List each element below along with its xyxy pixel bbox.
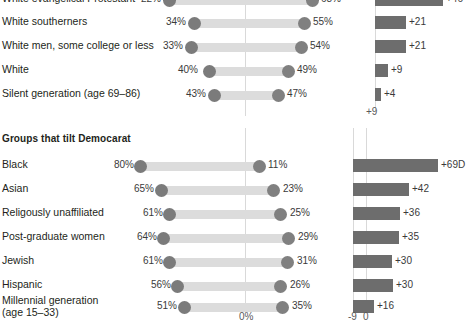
value-left: 80% [114, 159, 134, 170]
dumbbell: 80% 11% [0, 155, 360, 177]
table-row: Millennial generation (age 15–33) 51% 35… [0, 296, 468, 318]
dot-left [171, 280, 184, 293]
table-row: White southerners 34% 55% +21 [0, 12, 468, 34]
value-left: 61% [143, 207, 163, 218]
gap-label: +4 [384, 88, 395, 99]
dot-left [163, 256, 176, 269]
dot-left [163, 208, 176, 221]
connector-bar [168, 0, 312, 5]
connector-bar [183, 303, 282, 312]
dot-left [185, 41, 198, 54]
value-right: 11% [268, 159, 287, 170]
gap-bar [353, 255, 392, 268]
gap-label: +9 [391, 64, 402, 75]
connector-bar [168, 258, 287, 267]
gap-bar [353, 207, 400, 220]
gap-bar [353, 279, 393, 292]
dumbbell: 64% 29% [0, 227, 360, 249]
dot-right [298, 17, 311, 30]
table-row: White 40% 49% +9 [0, 60, 468, 82]
connector-bar [190, 43, 301, 52]
value-left: 43% [186, 88, 206, 99]
gap-bar [375, 16, 406, 29]
value-left: 64% [137, 231, 157, 242]
dot-right [274, 208, 287, 221]
gap-bar [375, 88, 381, 101]
table-row: Asian 65% 23% +42 [0, 179, 468, 201]
gap-label: +21 [409, 16, 426, 27]
value-left: 56% [151, 279, 171, 290]
gap-bar [375, 64, 388, 77]
connector-bar [168, 210, 280, 219]
table-row: White evangelical Protestant 22% 68% +46 [0, 0, 468, 11]
dot-right [282, 232, 295, 245]
connector-bar [176, 282, 280, 291]
value-right: 55% [313, 16, 333, 27]
table-row: White men, some college or less 33% 54% … [0, 36, 468, 58]
value-right: 31% [297, 255, 317, 266]
dot-left [188, 17, 201, 30]
value-left: 34% [166, 16, 186, 27]
dot-right [274, 280, 287, 293]
dot-left [208, 89, 221, 102]
connector-bar [193, 19, 304, 28]
dumbbell: 43% 47% [0, 84, 360, 106]
section-header-democrat: Groups that tilt Democarat [2, 133, 131, 144]
dot-left [203, 65, 216, 78]
connector-bar [160, 186, 273, 195]
value-right: 54% [310, 40, 330, 51]
axis-tick-minus-nine: -9 [348, 311, 357, 321]
gap-label: +35 [402, 231, 419, 242]
gap-label: +36 [403, 207, 420, 218]
dot-right [267, 184, 280, 197]
dumbbell: 33% 54% [0, 36, 360, 58]
dumbbell: 22% 68% [0, 0, 360, 11]
value-left: 65% [134, 183, 154, 194]
axis-tick-zero: 0 [363, 311, 369, 321]
value-right: 68% [321, 0, 341, 4]
value-left: 40% [178, 64, 198, 75]
gap-bar [353, 183, 409, 196]
dot-right [295, 41, 308, 54]
table-row: Black 80% 11% +69D [0, 155, 468, 177]
value-right: 47% [287, 88, 307, 99]
dot-left [157, 232, 170, 245]
dot-right [276, 301, 289, 314]
gap-label: +16 [377, 300, 394, 311]
table-row: Religously unaffiliated 61% 25% +36 [0, 203, 468, 225]
dot-right [272, 89, 285, 102]
gap-label: +42 [412, 183, 429, 194]
connector-bar [213, 91, 278, 100]
connector-bar [139, 162, 259, 171]
connector-bar [208, 67, 288, 76]
value-right: 49% [297, 64, 317, 75]
dumbbell: 65% 23% [0, 179, 360, 201]
dot-left [155, 184, 168, 197]
table-row: Jewish 61% 31% +30 [0, 251, 468, 273]
dumbbell: 51% 35% [0, 296, 360, 318]
value-right: 35% [292, 300, 312, 311]
connector-bar [162, 234, 288, 243]
gap-bar [353, 159, 438, 172]
value-right: 29% [298, 231, 318, 242]
dumbbell: 61% 31% [0, 251, 360, 273]
chart-canvas: White evangelical Protestant 22% 68% +46… [0, 0, 468, 321]
dot-left [178, 301, 191, 314]
gap-label: +46 [446, 0, 463, 4]
dot-right [306, 0, 319, 7]
dot-left [163, 0, 176, 7]
axis-tick-top-gap: +9 [366, 106, 377, 117]
axis-tick-zero-percent: 0% [239, 311, 253, 321]
value-right: 23% [283, 183, 303, 194]
gap-bar [353, 231, 399, 244]
dumbbell: 34% 55% [0, 12, 360, 34]
gap-bar [375, 40, 406, 53]
dumbbell: 61% 25% [0, 203, 360, 225]
value-left: 61% [143, 255, 163, 266]
table-row: Silent generation (age 69–86) 43% 47% +4 [0, 84, 468, 106]
value-right: 25% [290, 207, 310, 218]
dot-right [281, 256, 294, 269]
value-left: 51% [157, 300, 177, 311]
value-left: 22% [141, 0, 161, 4]
dot-left [134, 160, 147, 173]
